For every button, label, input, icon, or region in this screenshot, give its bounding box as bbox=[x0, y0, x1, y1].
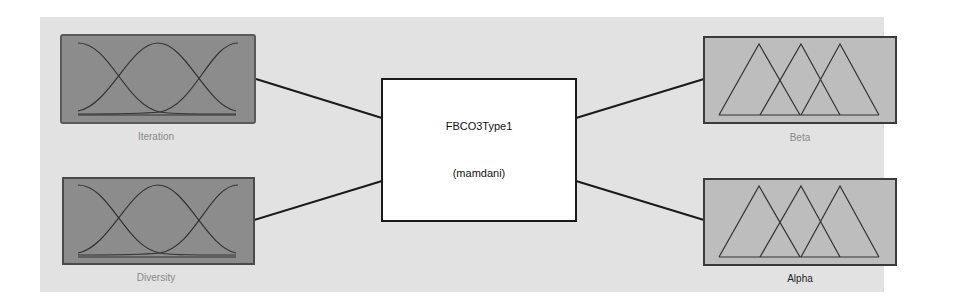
input-iteration-block[interactable] bbox=[61, 35, 255, 123]
input-diversity-label: Diversity bbox=[56, 272, 256, 283]
connector-iteration bbox=[256, 79, 382, 118]
system-name: FBCO3Type1 bbox=[389, 120, 569, 132]
connector-diversity bbox=[254, 181, 382, 220]
output-beta-block[interactable] bbox=[704, 37, 896, 123]
input-diversity-block[interactable] bbox=[63, 178, 254, 264]
output-alpha-label: Alpha bbox=[700, 273, 900, 284]
output-alpha-block[interactable] bbox=[704, 179, 896, 265]
fis-diagram bbox=[0, 0, 960, 304]
connector-beta bbox=[576, 79, 704, 118]
system-type: (mamdani) bbox=[389, 167, 569, 179]
fis-system-block[interactable] bbox=[382, 79, 576, 221]
output-beta-label: Beta bbox=[700, 132, 900, 143]
connector-alpha bbox=[576, 181, 704, 220]
input-iteration-label: Iteration bbox=[56, 131, 256, 142]
